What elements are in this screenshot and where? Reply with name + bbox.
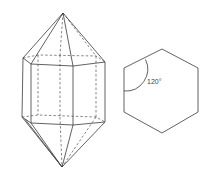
angle-label: 120° xyxy=(147,78,162,85)
hidden-edges xyxy=(22,13,105,167)
crystal-diagram: 120° xyxy=(0,0,212,178)
visible-edges xyxy=(22,13,105,167)
regular-hexagon: 120° xyxy=(124,49,198,133)
hexagonal-bipyramid xyxy=(22,13,105,167)
angle-arc xyxy=(124,60,148,92)
